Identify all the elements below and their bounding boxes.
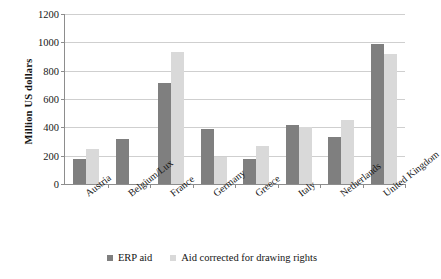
bar-erp-aid	[201, 129, 214, 184]
y-axis-title: Million US dollars	[23, 22, 34, 182]
legend-swatch-icon	[170, 255, 176, 261]
bar-group	[73, 14, 99, 184]
bar-aid-corrected	[384, 54, 397, 184]
bar-erp-aid	[286, 125, 299, 184]
bar-groups	[65, 14, 405, 184]
bar-group	[158, 14, 184, 184]
y-tick-label: 200	[43, 150, 59, 161]
chart-legend: ERP aidAid corrected for drawing rights	[0, 252, 424, 263]
bar-group	[243, 14, 269, 184]
plot-area: 020040060080010001200	[64, 14, 405, 185]
bar-group	[116, 14, 142, 184]
y-tick-label: 600	[43, 94, 59, 105]
y-tick-label: 800	[43, 65, 59, 76]
y-tick-label: 1200	[38, 9, 59, 20]
bar-erp-aid	[328, 137, 341, 184]
y-tick-label: 1000	[38, 37, 59, 48]
legend-item[interactable]: Aid corrected for drawing rights	[170, 252, 317, 263]
x-tick-mark	[320, 184, 321, 188]
bar-erp-aid	[116, 139, 129, 184]
bar-aid-corrected	[341, 120, 354, 184]
legend-label: ERP aid	[118, 252, 152, 263]
legend-swatch-icon	[107, 255, 113, 261]
bar-group	[201, 14, 227, 184]
legend-item[interactable]: ERP aid	[107, 252, 152, 263]
bar-group	[286, 14, 312, 184]
bar-aid-corrected	[299, 127, 312, 184]
bar-erp-aid	[73, 159, 86, 185]
legend-label: Aid corrected for drawing rights	[181, 252, 317, 263]
bar-group	[371, 14, 397, 184]
bar-erp-aid	[243, 159, 256, 185]
y-tick-label: 400	[43, 122, 59, 133]
y-tick-label: 0	[54, 179, 59, 190]
y-tick-mark	[61, 184, 65, 185]
bar-group	[328, 14, 354, 184]
